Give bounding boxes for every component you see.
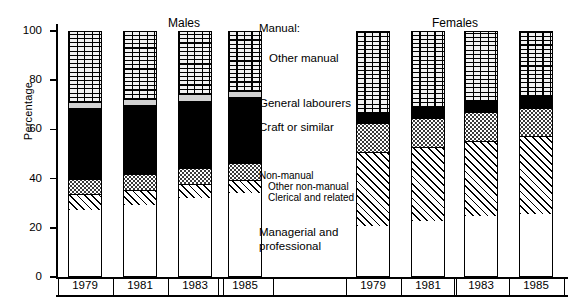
bar-segment-managerial-and-professional xyxy=(179,198,211,277)
y-tick-label: 60 xyxy=(8,122,42,134)
bar-segment-clerical-and-related xyxy=(179,184,211,198)
x-axis-separator xyxy=(218,277,220,296)
y-tick-label: 100 xyxy=(8,24,42,36)
bar-segment-craft-or-similar xyxy=(124,105,156,174)
y-tick-label: 80 xyxy=(8,73,42,85)
bar-segment-general-labourers xyxy=(124,99,156,105)
annotation-other-non-manual: Other non-manual xyxy=(259,181,349,192)
bar-segment-other-manual xyxy=(124,31,156,99)
bar-segment-other-non-manual xyxy=(229,163,261,180)
bar-segment-general-labourers xyxy=(179,94,211,100)
bar-segment-craft-or-similar xyxy=(357,113,389,123)
x-axis-label-females-1979: 1979 xyxy=(350,279,396,291)
bar-segment-clerical-and-related xyxy=(124,190,156,205)
bar-segment-managerial-and-professional xyxy=(229,193,261,277)
bar-segment-clerical-and-related xyxy=(465,141,497,216)
bar-males-1979 xyxy=(68,31,102,277)
y-tick-mark xyxy=(50,79,58,81)
annotation-other-manual: Other manual xyxy=(269,52,339,64)
annotation-general-labourers: General labourers xyxy=(259,97,351,109)
y-tick-mark xyxy=(50,30,58,32)
bar-segment-managerial-and-professional xyxy=(520,214,552,277)
bar-males-1981 xyxy=(123,31,157,277)
bar-segment-managerial-and-professional xyxy=(69,210,101,276)
bar-segment-managerial-and-professional xyxy=(124,205,156,276)
bar-segment-clerical-and-related xyxy=(229,180,261,192)
y-tick-mark xyxy=(50,178,58,180)
x-axis-label-females-1983: 1983 xyxy=(458,279,504,291)
bar-segment-craft-or-similar xyxy=(229,97,261,163)
bar-segment-general-labourers xyxy=(229,91,261,97)
bar-segment-craft-or-similar xyxy=(412,107,444,118)
bar-segment-craft-or-similar xyxy=(69,108,101,179)
x-axis-separator xyxy=(113,277,115,296)
y-tick-mark xyxy=(50,129,58,131)
annotation-craft-or-similar: Craft or similar xyxy=(259,121,334,133)
bar-segment-other-manual xyxy=(520,31,552,96)
annotation-manual-header: Manual: xyxy=(259,22,300,34)
annotation-clerical-and-related: Clerical and related xyxy=(259,192,354,203)
bar-segment-clerical-and-related xyxy=(69,194,101,210)
x-axis-separator xyxy=(456,277,458,296)
x-axis-separator xyxy=(346,277,348,296)
bar-males-1983 xyxy=(178,31,212,277)
bar-segment-managerial-and-professional xyxy=(465,216,497,276)
bar-females-1979 xyxy=(356,31,390,277)
bar-segment-clerical-and-related xyxy=(412,147,444,221)
bar-segment-other-non-manual xyxy=(124,174,156,190)
y-axis-line xyxy=(56,24,58,278)
bar-segment-other-manual xyxy=(229,31,261,91)
x-axis-separator xyxy=(509,277,511,296)
bar-segment-other-manual xyxy=(412,31,444,107)
annotation-managerial-line1: Managerial and xyxy=(259,226,338,238)
x-axis-separator xyxy=(273,277,275,296)
bar-segment-managerial-and-professional xyxy=(357,226,389,276)
group-title-females: Females xyxy=(395,16,515,30)
bar-segment-craft-or-similar xyxy=(179,101,211,169)
bar-segment-other-non-manual xyxy=(179,168,211,184)
bar-segment-other-manual xyxy=(465,31,497,101)
chart-root: Percentage 100806040200 1979198119831985… xyxy=(0,0,577,305)
bar-segment-other-manual xyxy=(179,31,211,94)
annotation-managerial-line2: professional xyxy=(259,240,321,252)
bar-females-1983 xyxy=(464,31,498,277)
y-tick-label: 20 xyxy=(8,221,42,233)
bar-segment-other-manual xyxy=(69,31,101,102)
group-title-males: Males xyxy=(124,16,244,30)
x-axis-separator xyxy=(564,277,566,296)
bar-segment-other-non-manual xyxy=(520,108,552,136)
bar-segment-other-manual xyxy=(357,31,389,113)
x-axis-label-males-1985: 1985 xyxy=(222,279,268,291)
x-axis-separator xyxy=(58,277,60,296)
bar-segment-clerical-and-related xyxy=(357,152,389,226)
y-tick-label: 40 xyxy=(8,172,42,184)
bar-segment-other-non-manual xyxy=(69,179,101,194)
bar-segment-other-non-manual xyxy=(465,112,497,142)
bar-females-1981 xyxy=(411,31,445,277)
x-axis-label-males-1981: 1981 xyxy=(117,279,163,291)
bar-segment-craft-or-similar xyxy=(465,101,497,112)
bar-segment-general-labourers xyxy=(69,102,101,108)
bar-males-1985 xyxy=(228,31,262,277)
bar-segment-other-non-manual xyxy=(412,118,444,148)
x-axis-label-females-1981: 1981 xyxy=(405,279,451,291)
y-tick-label: 0 xyxy=(8,270,42,282)
bar-segment-managerial-and-professional xyxy=(412,221,444,276)
x-axis-label-males-1983: 1983 xyxy=(172,279,218,291)
x-axis-separator xyxy=(454,277,456,296)
bar-segment-other-non-manual xyxy=(357,123,389,153)
x-axis-baseline xyxy=(56,295,568,297)
bar-segment-craft-or-similar xyxy=(520,96,552,108)
x-axis-separator xyxy=(168,277,170,296)
x-axis-label-males-1979: 1979 xyxy=(62,279,108,291)
annotation-non-manual-header: Non-manual xyxy=(259,170,313,181)
y-tick-mark xyxy=(50,227,58,229)
x-axis-label-females-1985: 1985 xyxy=(513,279,559,291)
x-axis-separator xyxy=(401,277,403,296)
bar-females-1985 xyxy=(519,31,553,277)
bar-segment-clerical-and-related xyxy=(520,136,552,213)
